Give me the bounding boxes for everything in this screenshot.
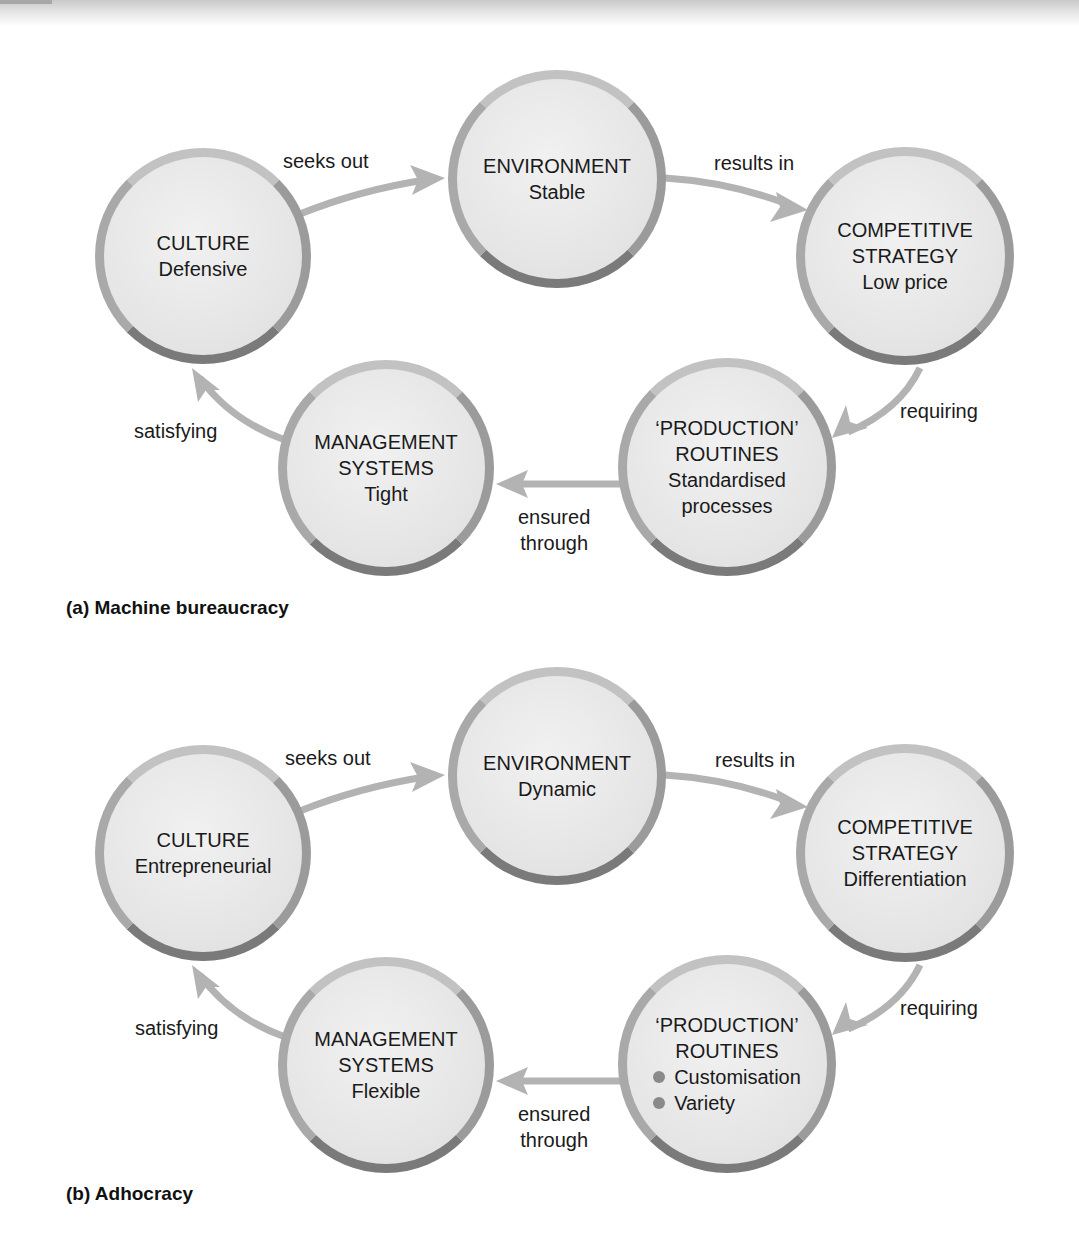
node-strategy-title-1: COMPETITIVE	[837, 217, 973, 243]
node-routines-title-2: ROUTINES	[675, 441, 778, 467]
arrow-culture-to-environment	[300, 777, 425, 811]
link-label-requiring: requiring	[900, 995, 978, 1021]
node-routines-title-1: ‘PRODUCTION’	[655, 415, 798, 441]
node-strategy-value: Low price	[862, 269, 948, 295]
link-label-satisfying: satisfying	[134, 418, 217, 444]
caption-adhocracy: (b) Adhocracy	[66, 1183, 193, 1205]
node-environment-title: ENVIRONMENT	[483, 153, 631, 179]
bullet-item: Customisation	[653, 1064, 801, 1090]
node-strategy-title-2: STRATEGY	[852, 243, 958, 269]
node-strategy-title-1: COMPETITIVE	[837, 814, 973, 840]
node-culture-title: CULTURE	[157, 230, 250, 256]
node-management-title-1: MANAGEMENT	[314, 1026, 457, 1052]
node-management-title-2: SYSTEMS	[338, 1052, 434, 1078]
bullet-text: Variety	[674, 1090, 735, 1116]
link-label-ensured: ensured	[518, 1101, 590, 1127]
node-culture: CULTURE Defensive	[95, 148, 311, 364]
link-label-results-in: results in	[715, 747, 795, 773]
node-management-title-1: MANAGEMENT	[314, 429, 457, 455]
diagram-machine-bureaucracy: CULTURE Defensive ENVIRONMENT Stable COM…	[0, 0, 1079, 600]
link-label-through: through	[518, 530, 590, 556]
node-management-systems: MANAGEMENT SYSTEMS Tight	[278, 360, 494, 576]
link-label-ensured-through: ensured through	[518, 1101, 590, 1153]
link-label-satisfying: satisfying	[135, 1015, 218, 1041]
node-routines-value-1: Standardised	[668, 467, 786, 493]
node-environment-title: ENVIRONMENT	[483, 750, 631, 776]
arrow-environment-to-strategy	[665, 178, 790, 205]
link-label-requiring: requiring	[900, 398, 978, 424]
node-management-value: Tight	[364, 481, 408, 507]
bullet-dot-icon	[653, 1071, 665, 1083]
node-culture: CULTURE Entrepreneurial	[95, 745, 311, 961]
node-competitive-strategy: COMPETITIVE STRATEGY Low price	[796, 147, 1014, 365]
node-production-routines: ‘PRODUCTION’ ROUTINES Customisation Vari…	[618, 955, 836, 1173]
link-label-seeks-out: seeks out	[285, 745, 371, 771]
node-environment-value: Stable	[529, 179, 586, 205]
arrow-environment-to-strategy	[665, 775, 790, 802]
node-environment-value: Dynamic	[518, 776, 596, 802]
node-management-value: Flexible	[352, 1078, 421, 1104]
node-culture-value: Defensive	[159, 256, 248, 282]
node-culture-title: CULTURE	[157, 827, 250, 853]
link-label-ensured: ensured	[518, 504, 590, 530]
node-strategy-title-2: STRATEGY	[852, 840, 958, 866]
bullet-item: Variety	[653, 1090, 801, 1116]
link-label-ensured-through: ensured through	[518, 504, 590, 556]
diagram-adhocracy: CULTURE Entrepreneurial ENVIRONMENT Dyna…	[0, 597, 1079, 1197]
node-competitive-strategy: COMPETITIVE STRATEGY Differentiation	[796, 744, 1014, 962]
node-environment: ENVIRONMENT Stable	[448, 70, 666, 288]
node-routines-title-1: ‘PRODUCTION’	[655, 1012, 798, 1038]
node-culture-value: Entrepreneurial	[135, 853, 272, 879]
node-strategy-value: Differentiation	[843, 866, 966, 892]
node-routines-value-2: processes	[681, 493, 772, 519]
node-management-systems: MANAGEMENT SYSTEMS Flexible	[278, 957, 494, 1173]
bullet-text: Customisation	[674, 1064, 801, 1090]
link-label-through: through	[518, 1127, 590, 1153]
routines-bullet-list: Customisation Variety	[653, 1064, 801, 1116]
node-routines-title-2: ROUTINES	[675, 1038, 778, 1064]
node-management-title-2: SYSTEMS	[338, 455, 434, 481]
bullet-dot-icon	[653, 1097, 665, 1109]
arrow-culture-to-environment	[300, 180, 425, 214]
node-environment: ENVIRONMENT Dynamic	[448, 667, 666, 885]
node-production-routines: ‘PRODUCTION’ ROUTINES Standardised proce…	[618, 358, 836, 576]
link-label-seeks-out: seeks out	[283, 148, 369, 174]
link-label-results-in: results in	[714, 150, 794, 176]
